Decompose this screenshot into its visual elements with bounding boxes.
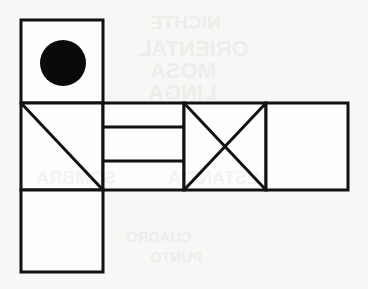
right-plain-square [266,103,348,190]
figure-canvas: NICHTEORIENTALMOSALINGASOMBRAESTANCIACUA… [0,0,368,289]
circle-group [40,40,86,86]
banded-connector-rectangle [103,103,184,190]
filled-circle [40,40,86,86]
bottom-plain-square [21,190,103,272]
cube-net-diagram [0,0,368,289]
